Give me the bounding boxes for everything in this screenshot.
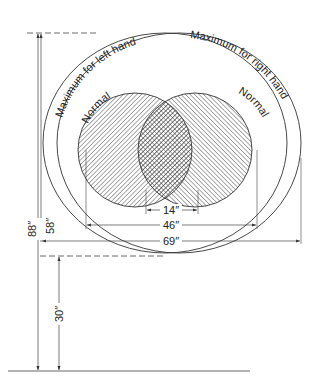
label-normal-right: Normal — [237, 84, 272, 118]
dim-label-30: 30″ — [53, 306, 65, 322]
dim-label-46: 46″ — [163, 219, 179, 231]
dim-label-69: 69″ — [163, 235, 179, 247]
dim-label-58: 58″ — [44, 218, 56, 234]
work-area-diagram: 14″ 46″ 69″ 88″ 58″ 30″ Maximum for left… — [0, 0, 315, 388]
dim-label-88: 88″ — [26, 221, 38, 237]
dim-label-14: 14″ — [163, 204, 179, 216]
